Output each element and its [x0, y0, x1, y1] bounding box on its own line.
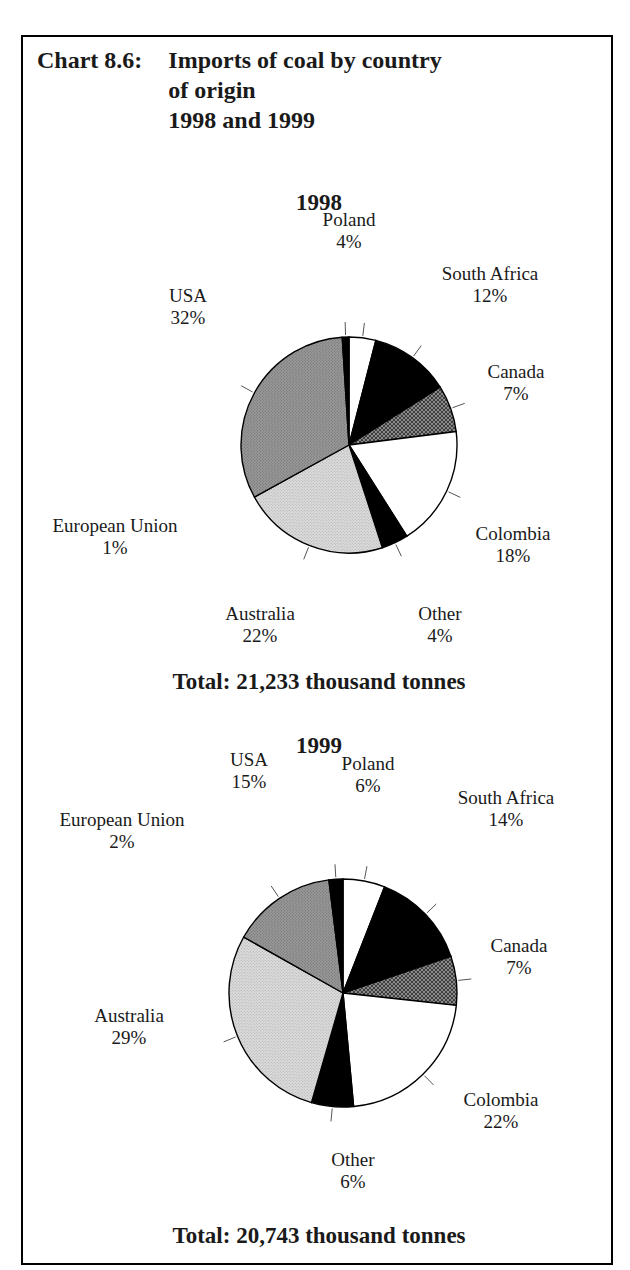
pie-label-1999-canada: Canada7%	[419, 935, 619, 979]
leader-line	[396, 545, 402, 557]
pie-label-value: 4%	[340, 625, 540, 647]
pie-label-value: 7%	[416, 383, 616, 405]
pie-label-1998-colombia: Colombia18%	[413, 523, 613, 567]
pie-label-name: Colombia	[401, 1089, 601, 1111]
pie-label-1998-poland: Poland4%	[249, 209, 449, 253]
pie-label-1998-usa: USA32%	[88, 285, 288, 329]
pie-label-value: 6%	[253, 1171, 453, 1193]
pie-label-1998-south-africa: South Africa12%	[390, 263, 590, 307]
pie-label-value: 7%	[419, 957, 619, 979]
leader-line	[271, 886, 278, 897]
pie-label-name: Poland	[249, 209, 449, 231]
leader-line	[335, 864, 336, 877]
leader-line	[449, 492, 461, 498]
pie-label-1998-australia: Australia22%	[160, 603, 360, 647]
pie-label-value: 4%	[249, 231, 449, 253]
pie-label-value: 32%	[88, 307, 288, 329]
leader-line	[427, 904, 436, 913]
pie-label-name: South Africa	[406, 787, 606, 809]
leader-line	[365, 866, 367, 879]
leader-line	[458, 979, 471, 980]
pie-label-name: Other	[340, 603, 540, 625]
leader-line	[304, 547, 309, 559]
leader-line	[414, 345, 422, 356]
leader-line	[424, 1076, 433, 1085]
pie-label-value: 22%	[160, 625, 360, 647]
pie-label-value: 15%	[149, 771, 349, 793]
chart-frame: Chart 8.6: Imports of coal by country of…	[21, 35, 613, 1265]
pie-label-value: 18%	[413, 545, 613, 567]
pie-label-name: USA	[88, 285, 288, 307]
pie-label-value: 29%	[29, 1027, 229, 1049]
pie-label-value: 22%	[401, 1111, 601, 1133]
pie-label-name: South Africa	[390, 263, 590, 285]
pie-label-name: European Union	[15, 515, 215, 537]
pie-label-value: 1%	[15, 537, 215, 559]
pie-label-1999-other: Other6%	[253, 1149, 453, 1193]
pie-label-1999-colombia: Colombia22%	[401, 1089, 601, 1133]
pie-label-name: Canada	[419, 935, 619, 957]
pie-label-1999-european-union: European Union2%	[22, 809, 222, 853]
pie-label-1999-usa: USA15%	[149, 749, 349, 793]
pie-label-value: 14%	[406, 809, 606, 831]
leader-line	[331, 1109, 332, 1122]
pie-label-name: USA	[149, 749, 349, 771]
pie-label-1999-australia: Australia29%	[29, 1005, 229, 1049]
leader-line	[241, 386, 252, 392]
pie-label-value: 12%	[390, 285, 590, 307]
pie-label-name: Other	[253, 1149, 453, 1171]
pie-label-1999-south-africa: South Africa14%	[406, 787, 606, 831]
pie-label-name: Australia	[29, 1005, 229, 1027]
pie-label-1998-european-union: European Union1%	[15, 515, 215, 559]
pie-label-name: Canada	[416, 361, 616, 383]
pie-label-name: European Union	[22, 809, 222, 831]
pie-label-name: Australia	[160, 603, 360, 625]
pie-label-value: 2%	[22, 831, 222, 853]
leader-line	[363, 323, 365, 336]
pie-label-1998-other: Other4%	[340, 603, 540, 647]
pie-label-1998-canada: Canada7%	[416, 361, 616, 405]
pie-label-name: Colombia	[413, 523, 613, 545]
